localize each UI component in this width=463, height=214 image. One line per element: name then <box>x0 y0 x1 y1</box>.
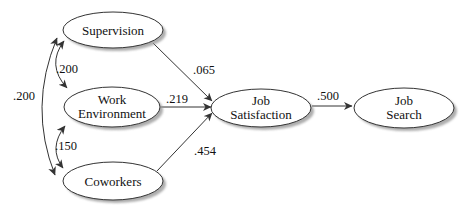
corr-work-environment-coworkers: .150 <box>55 139 77 153</box>
node-job-satisfaction-label-line2: Satisfaction <box>230 107 292 122</box>
node-job-search-label-line1: Job <box>395 93 413 108</box>
node-job-search: Job Search <box>354 88 457 131</box>
path-analysis-diagram: Supervision Work Environment Coworkers J… <box>0 0 463 214</box>
corr-supervision-coworkers: .200 <box>13 89 35 103</box>
correlation-arrows <box>42 38 67 175</box>
node-job-search-label-line2: Search <box>386 107 422 122</box>
node-job-satisfaction-label-line1: Job <box>252 93 270 108</box>
node-supervision: Supervision <box>63 12 166 51</box>
node-work-environment: Work Environment <box>64 87 163 130</box>
node-work-environment-label-line1: Work <box>98 92 127 107</box>
arrow-coworkers-to-job-satisfaction <box>157 113 212 171</box>
node-work-environment-label-line2: Environment <box>78 106 146 121</box>
coef-supervision-job-satisfaction: .065 <box>193 63 215 77</box>
curve-supervision-coworkers <box>42 38 57 175</box>
node-job-satisfaction: Job Satisfaction <box>211 89 314 130</box>
node-coworkers: Coworkers <box>63 162 166 203</box>
coef-job-satisfaction-job-search: .500 <box>317 89 339 103</box>
corr-supervision-work-environment: .200 <box>56 62 78 76</box>
node-supervision-label: Supervision <box>82 23 145 38</box>
node-coworkers-label: Coworkers <box>84 174 141 189</box>
coef-work-environment-job-satisfaction: .219 <box>166 92 188 106</box>
coef-coworkers-job-satisfaction: .454 <box>194 144 217 158</box>
path-diagram-canvas: Supervision Work Environment Coworkers J… <box>0 0 463 214</box>
